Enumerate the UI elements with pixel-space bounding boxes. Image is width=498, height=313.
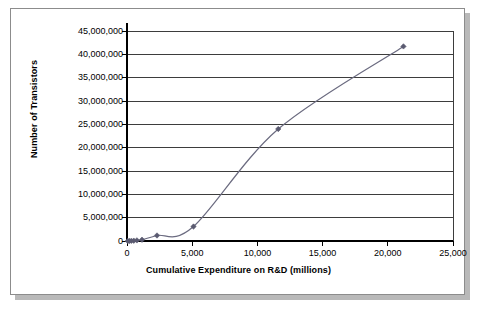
y-axis-tick-label: 45,000,000 — [33, 27, 123, 36]
series-line-number-of-transistors — [128, 46, 404, 241]
x-axis-tick-label: 5,000 — [162, 249, 222, 258]
x-axis-tick-label: 15,000 — [293, 249, 353, 258]
y-axis-tick-label: 25,000,000 — [33, 120, 123, 129]
axis-ticks-group — [122, 31, 453, 246]
y-axis-tick-label: 30,000,000 — [33, 97, 123, 106]
data-markers-group — [125, 44, 406, 244]
y-axis-tick-label: 5,000,000 — [33, 213, 123, 222]
y-axis-tick-label: 10,000,000 — [33, 190, 123, 199]
x-axis-tick-label: 0 — [97, 249, 157, 258]
data-series-group — [128, 46, 404, 241]
data-point-marker — [154, 233, 159, 238]
y-axis-tick-label: 40,000,000 — [33, 50, 123, 59]
x-axis-tick-label: 25,000 — [423, 249, 483, 258]
x-axis-tick-label: 10,000 — [227, 249, 287, 258]
y-axis-tick-label: 20,000,000 — [33, 143, 123, 152]
x-axis-title: Cumulative Expenditure on R&D (millions) — [11, 265, 466, 275]
chart-figure-frame: 05,000,00010,000,00015,000,00020,000,000… — [10, 8, 465, 295]
y-axis-tick-label: 0 — [33, 237, 123, 246]
gridlines-group — [127, 31, 453, 241]
x-axis-tick-labels: 05,00010,00015,00020,00025,000 — [11, 249, 466, 265]
axes-group — [127, 23, 453, 242]
y-axis-tick-label: 35,000,000 — [33, 73, 123, 82]
y-axis-tick-label: 15,000,000 — [33, 167, 123, 176]
x-axis-tick-label: 20,000 — [358, 249, 418, 258]
y-axis-title: Number of Transistors — [29, 34, 39, 184]
